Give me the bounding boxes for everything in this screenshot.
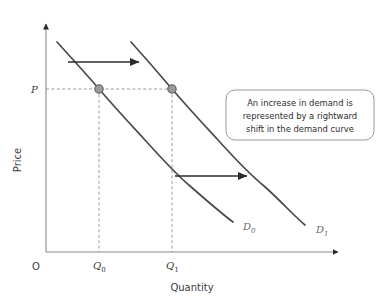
price-level-label: P <box>30 84 38 95</box>
callout-line-3: shift in the demand curve <box>246 124 354 134</box>
demand-shift-callout: An increase in demand is represented by … <box>226 90 374 140</box>
guide-lines-group <box>46 89 172 252</box>
callout-line-1: An increase in demand is <box>247 98 353 108</box>
y-axis-title: Price <box>12 148 23 172</box>
x-axis-title: Quantity <box>170 282 213 293</box>
equilibrium-point-0 <box>95 85 103 93</box>
diagram-canvas: D0 D1 P Q0 Q1 O Price Quantity An increa… <box>0 0 386 301</box>
demand-shift-diagram: D0 D1 P Q0 Q1 O Price Quantity An increa… <box>0 0 386 301</box>
curve-label-d0: D0 <box>242 221 256 235</box>
shift-arrows-group <box>68 62 247 176</box>
demand-curve-d0 <box>57 42 233 222</box>
curve-label-d1: D1 <box>315 224 329 238</box>
origin-label: O <box>32 261 40 272</box>
quantity-0-label: Q0 <box>93 260 106 274</box>
quantity-1-label: Q1 <box>166 260 179 274</box>
callout-line-2: represented by a rightward <box>243 111 357 121</box>
equilibrium-point-1 <box>168 85 176 93</box>
